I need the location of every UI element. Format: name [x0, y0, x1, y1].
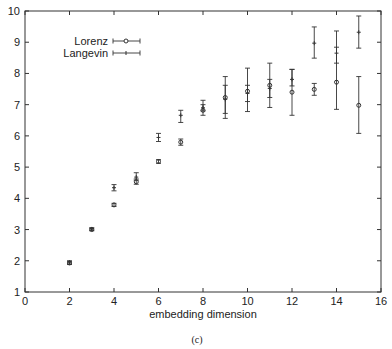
data-point: [223, 85, 228, 113]
y-tick-label: 2: [14, 255, 20, 267]
y-tick-label: 10: [8, 5, 20, 17]
data-point: [356, 77, 361, 134]
y-tick-label: 8: [14, 67, 20, 79]
data-point: [312, 83, 317, 95]
figure-caption: (c): [191, 334, 202, 346]
chart-canvas: 12345678910 0246810121416 embedding dime…: [0, 0, 392, 349]
x-tick-label: 0: [22, 295, 28, 307]
data-point: [245, 85, 250, 101]
y-tick-label: 9: [14, 36, 20, 48]
x-tick-label: 14: [330, 295, 342, 307]
legend-label-langevin: Langevin: [63, 47, 108, 59]
series-langevin: [67, 16, 361, 264]
data-point: [312, 27, 317, 58]
y-tick-label: 7: [14, 99, 20, 111]
data-point: [334, 47, 339, 63]
x-tick-label: 16: [375, 295, 387, 307]
data-point: [356, 16, 361, 48]
series-lorenz: [67, 31, 361, 265]
data-point: [89, 227, 94, 231]
data-point: [267, 79, 272, 97]
data-point: [290, 69, 295, 86]
x-tick-label: 4: [111, 295, 117, 307]
x-tick-label: 8: [200, 295, 206, 307]
data-point: [334, 31, 339, 109]
data-point: [178, 139, 183, 145]
y-tick-label: 1: [14, 286, 20, 298]
y-tick-label: 4: [14, 192, 20, 204]
y-tick-label: 3: [14, 224, 20, 236]
data-point: [156, 133, 161, 141]
x-axis-label: embedding dimension: [149, 308, 257, 320]
data-point: [112, 203, 117, 207]
y-tick-label: 5: [14, 161, 20, 173]
data-series: [67, 16, 361, 265]
x-tick-label: 12: [286, 295, 298, 307]
data-point: [156, 159, 161, 163]
y-tick-label: 6: [14, 130, 20, 142]
data-point: [67, 260, 72, 264]
x-tick-label: 10: [241, 295, 253, 307]
data-point: [112, 185, 117, 191]
legend: Lorenz Langevin: [63, 35, 140, 59]
x-tick-label: 6: [155, 295, 161, 307]
x-tick-label: 2: [66, 295, 72, 307]
legend-keys: [113, 39, 140, 56]
data-point: [178, 110, 183, 122]
y-axis-tick-labels: 12345678910: [8, 5, 20, 298]
x-axis-tick-labels: 0246810121416: [22, 295, 387, 307]
legend-label-lorenz: Lorenz: [74, 35, 108, 47]
